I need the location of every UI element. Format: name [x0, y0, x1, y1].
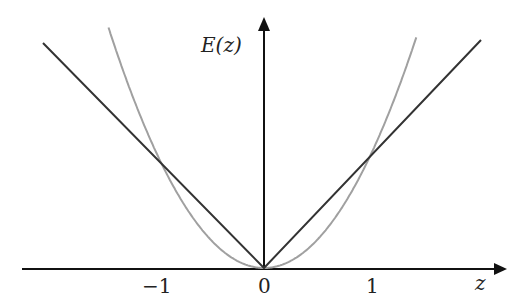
- chart: E(z) z −1 0 1: [0, 0, 516, 308]
- y-axis-label: E(z): [200, 33, 242, 57]
- tick-label-neg1: −1: [142, 274, 171, 298]
- y-axis-arrow-icon: [258, 17, 270, 31]
- tick-label-1: 1: [366, 274, 379, 298]
- series-abs-z: [43, 40, 481, 268]
- x-axis-label: z: [474, 271, 486, 295]
- tick-label-0: 0: [258, 274, 271, 298]
- series-z-squared: [109, 28, 417, 269]
- x-axis-arrow-icon: [494, 263, 507, 275]
